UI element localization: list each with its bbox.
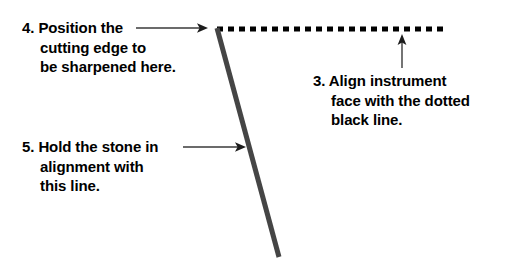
callout-3-line-3: black line.: [313, 110, 470, 130]
stone-alignment-line: [217, 28, 279, 257]
callout-4-position-cutting-edge: 4. Position the cutting edge to be sharp…: [22, 18, 176, 77]
arrow-callout-5-icon: [183, 142, 246, 152]
callout-5-line-2: alignment with: [22, 157, 158, 177]
instruction-diagram: 4. Position the cutting edge to be sharp…: [0, 0, 507, 267]
arrow-callout-3-icon: [398, 34, 407, 68]
callout-5-line-3: this line.: [22, 176, 158, 196]
callout-3-line-1: 3. Align instrument: [313, 71, 470, 91]
callout-4-line-2: cutting edge to: [22, 38, 176, 58]
callout-4-line-3: be sharpened here.: [22, 57, 176, 77]
callout-5-hold-the-stone: 5. Hold the stone in alignment with this…: [22, 137, 158, 196]
callout-3-align-instrument: 3. Align instrument face with the dotted…: [313, 71, 470, 130]
callout-5-line-1: 5. Hold the stone in: [22, 137, 158, 157]
callout-4-line-1: 4. Position the: [22, 18, 176, 38]
callout-3-line-2: face with the dotted: [313, 91, 470, 111]
